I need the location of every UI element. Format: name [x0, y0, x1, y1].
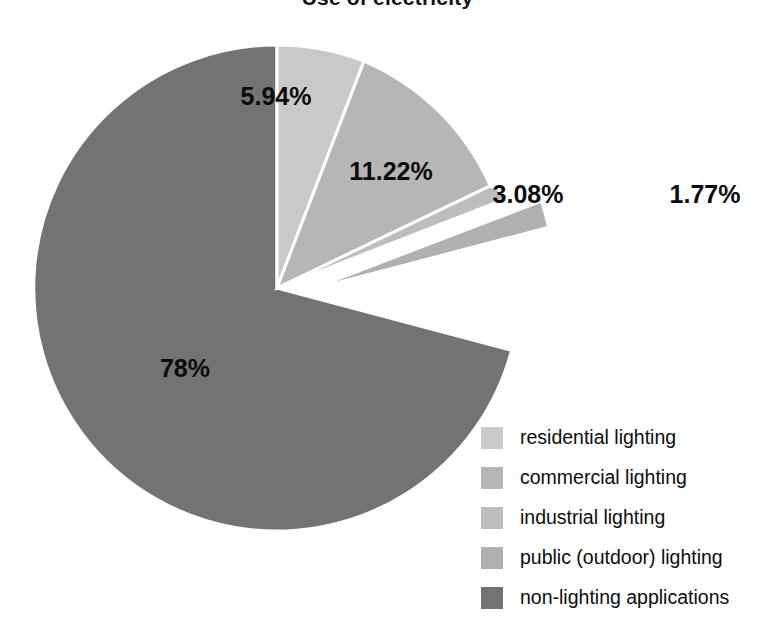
legend-swatch-residential-lighting	[481, 427, 503, 449]
legend-swatch-non-lighting-applications	[481, 587, 503, 609]
legend-swatch-commercial-lighting	[481, 467, 503, 489]
slice-value-residential: 5.94%	[241, 82, 312, 110]
legend-item-non-lighting-applications[interactable]: non-lighting applications	[481, 578, 771, 618]
legend-item-residential-lighting[interactable]: residential lighting	[481, 418, 771, 458]
legend-swatch-public-outdoor-lighting	[481, 547, 503, 569]
legend-label-residential-lighting: residential lighting	[520, 428, 676, 448]
legend-label-industrial-lighting: industrial lighting	[520, 508, 665, 528]
legend-label-non-lighting-applications: non-lighting applications	[520, 588, 729, 608]
legend-item-commercial-lighting[interactable]: commercial lighting	[481, 458, 771, 498]
legend-item-industrial-lighting[interactable]: industrial lighting	[481, 498, 771, 538]
slice-value-public: 1.77%	[670, 180, 741, 208]
pie-chart-figure: Use of electricity 5.94% 11.22% 3.08% 1.…	[0, 0, 775, 641]
legend-swatch-industrial-lighting	[481, 507, 503, 529]
legend-label-commercial-lighting: commercial lighting	[520, 468, 687, 488]
legend-label-public-outdoor-lighting: public (outdoor) lighting	[520, 548, 723, 568]
slice-value-commercial: 11.22%	[349, 157, 432, 185]
chart-legend: residential lighting commercial lighting…	[481, 418, 771, 618]
slice-value-non-lighting: 78%	[160, 354, 210, 382]
slice-value-industrial: 3.08%	[493, 180, 564, 208]
legend-item-public-outdoor-lighting[interactable]: public (outdoor) lighting	[481, 538, 771, 578]
